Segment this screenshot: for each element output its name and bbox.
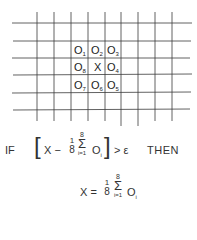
condition-term: Oi xyxy=(92,144,102,158)
assignment-term: Oi xyxy=(127,186,137,200)
neighbor-label: O1 xyxy=(74,45,86,60)
neighbor-label: O5 xyxy=(107,80,119,95)
sum-lower-limit: i=1 xyxy=(112,192,124,199)
term-base: O xyxy=(92,144,101,156)
term-subscript: i xyxy=(101,152,102,158)
center-pixel-label: X xyxy=(94,62,101,73)
term-base: O xyxy=(127,186,136,198)
neighbor-label: O3 xyxy=(107,45,119,60)
term-subscript: i xyxy=(136,194,137,200)
condition-fraction: 1 8 xyxy=(68,136,76,155)
summation-symbol: 8 Σ i=1 xyxy=(112,173,124,199)
sigma-icon: Σ xyxy=(76,138,88,150)
neighbor-label: O8 xyxy=(74,62,86,77)
neighbor-label: O7 xyxy=(74,80,86,95)
neighbor-label: O4 xyxy=(107,62,119,77)
condition-lhs: X − xyxy=(44,144,61,156)
fraction-denominator: 8 xyxy=(68,145,76,155)
fraction-denominator: 8 xyxy=(103,187,111,197)
neighbor-label: O2 xyxy=(91,45,103,60)
sigma-icon: Σ xyxy=(112,180,124,192)
if-keyword: IF xyxy=(5,144,15,156)
assignment-fraction: 1 8 xyxy=(103,178,111,197)
comparison: > ε xyxy=(114,144,128,156)
grid-row-line xyxy=(13,74,192,75)
assignment-lhs: X = xyxy=(80,186,97,198)
open-bracket: [ xyxy=(34,134,41,158)
summation-symbol: 8 Σ i=1 xyxy=(76,131,88,157)
close-bracket: ] xyxy=(104,134,111,158)
neighbor-label: O6 xyxy=(91,80,103,95)
then-keyword: THEN xyxy=(147,144,179,156)
sum-lower-limit: i=1 xyxy=(76,150,88,157)
grid-row-line xyxy=(13,109,190,110)
